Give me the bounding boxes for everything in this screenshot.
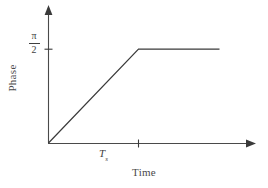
plot-canvas: [0, 0, 268, 188]
x-axis-title: Time: [132, 166, 156, 178]
pi-symbol: π: [24, 31, 44, 42]
settling-time-subscript: s: [105, 155, 108, 163]
y-axis-title: Phase: [6, 52, 18, 104]
x-axis-tick-label-settling-time: Ts: [99, 147, 108, 162]
phase-vs-time-figure: Phase π 2 Ts Time: [0, 0, 268, 188]
phase-response-curve: [49, 49, 220, 143]
y-axis-arrowhead: [45, 5, 53, 15]
denominator-two: 2: [24, 45, 44, 56]
y-axis-tick-label-pi-over-two: π 2: [24, 31, 44, 55]
x-axis-arrowhead: [246, 140, 256, 148]
